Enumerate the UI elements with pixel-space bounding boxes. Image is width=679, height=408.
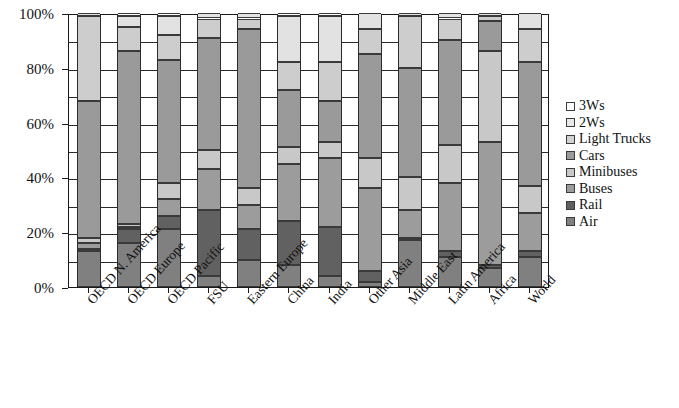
bar-world[interactable] [518, 15, 542, 287]
segment-3ws[interactable] [158, 13, 180, 16]
segment-light-trucks[interactable] [319, 62, 341, 100]
legend-label: Minibuses [579, 165, 637, 179]
segment-2ws[interactable] [78, 13, 100, 16]
legend-label: 2Ws [579, 116, 605, 130]
legend-item-2ws[interactable]: 2Ws [566, 115, 678, 132]
segment-light-trucks[interactable] [359, 29, 381, 54]
segment-cars[interactable] [519, 62, 541, 185]
bar-oecd-n-america[interactable] [77, 15, 101, 287]
segment-cars[interactable] [278, 90, 300, 148]
legend-swatch-icon [566, 135, 575, 144]
segment-light-trucks[interactable] [118, 27, 140, 52]
segment-rail[interactable] [158, 216, 180, 230]
segment-2ws[interactable] [198, 13, 220, 18]
segment-minibuses[interactable] [118, 224, 140, 227]
segment-light-trucks[interactable] [439, 19, 461, 41]
segment-cars[interactable] [439, 40, 461, 144]
segment-buses[interactable] [399, 210, 421, 237]
segment-light-trucks[interactable] [278, 62, 300, 89]
segment-rail[interactable] [319, 227, 341, 276]
segment-buses[interactable] [238, 205, 260, 230]
legend-label: Light Trucks [579, 132, 651, 146]
segment-buses[interactable] [439, 183, 461, 252]
bar-other-asia[interactable] [358, 15, 382, 287]
segment-rail[interactable] [519, 251, 541, 256]
segment-minibuses[interactable] [78, 238, 100, 243]
legend-swatch-icon [566, 151, 575, 160]
y-tick-label: 60% [27, 115, 55, 132]
segment-2ws[interactable] [519, 13, 541, 29]
segment-2ws[interactable] [238, 13, 260, 18]
legend-swatch-icon [566, 118, 575, 127]
segment-minibuses[interactable] [158, 183, 180, 199]
bar-india[interactable] [318, 15, 342, 287]
legend-item-cars[interactable]: Cars [566, 148, 678, 165]
segment-2ws[interactable] [319, 16, 341, 63]
segment-light-trucks[interactable] [238, 19, 260, 30]
y-tick-label: 0% [34, 280, 54, 297]
legend-label: Cars [579, 149, 605, 163]
segment-3ws[interactable] [278, 13, 300, 16]
legend: 3Ws2WsLight TrucksCarsMinibusesBusesRail… [566, 98, 678, 230]
y-tick-label: 40% [27, 170, 55, 187]
segment-minibuses[interactable] [359, 158, 381, 188]
segment-2ws[interactable] [278, 16, 300, 63]
segment-buses[interactable] [198, 169, 220, 210]
segment-buses[interactable] [319, 158, 341, 227]
segment-cars[interactable] [198, 38, 220, 150]
segment-minibuses[interactable] [479, 51, 501, 141]
legend-swatch-icon [566, 102, 575, 111]
segment-light-trucks[interactable] [78, 16, 100, 101]
segment-minibuses[interactable] [198, 150, 220, 169]
segment-3ws[interactable] [118, 13, 140, 16]
legend-item-light-trucks[interactable]: Light Trucks [566, 131, 678, 148]
segment-buses[interactable] [118, 227, 140, 230]
legend-item-air[interactable]: Air [566, 214, 678, 231]
segment-light-trucks[interactable] [479, 16, 501, 21]
segment-light-trucks[interactable] [519, 29, 541, 62]
segment-minibuses[interactable] [278, 147, 300, 163]
segment-cars[interactable] [319, 101, 341, 142]
segment-cars[interactable] [238, 29, 260, 188]
segment-2ws[interactable] [359, 13, 381, 29]
bar-middle-east[interactable] [398, 15, 422, 287]
legend-item-rail[interactable]: Rail [566, 197, 678, 214]
segment-rail[interactable] [78, 249, 100, 252]
segment-cars[interactable] [78, 101, 100, 238]
segment-minibuses[interactable] [519, 186, 541, 213]
bar-latin-america[interactable] [438, 15, 462, 287]
bar-eastern-europe[interactable] [237, 15, 261, 287]
segment-rail[interactable] [238, 229, 260, 259]
legend-label: Rail [579, 198, 602, 212]
legend-item-buses[interactable]: Buses [566, 181, 678, 198]
segment-rail[interactable] [399, 238, 421, 241]
segment-2ws[interactable] [479, 13, 501, 16]
segment-buses[interactable] [158, 199, 180, 215]
segment-cars[interactable] [118, 51, 140, 224]
segment-light-trucks[interactable] [158, 35, 180, 60]
segment-minibuses[interactable] [439, 145, 461, 183]
segment-minibuses[interactable] [319, 142, 341, 158]
segment-light-trucks[interactable] [198, 19, 220, 38]
segment-cars[interactable] [359, 54, 381, 158]
segment-buses[interactable] [359, 188, 381, 270]
segment-minibuses[interactable] [399, 177, 421, 210]
segment-buses[interactable] [519, 213, 541, 251]
legend-swatch-icon [566, 217, 575, 226]
segment-2ws[interactable] [158, 16, 180, 35]
segment-cars[interactable] [399, 68, 421, 178]
segment-2ws[interactable] [439, 13, 461, 18]
segment-rail[interactable] [359, 271, 381, 282]
segment-2ws[interactable] [399, 13, 421, 16]
legend-swatch-icon [566, 184, 575, 193]
segment-2ws[interactable] [118, 16, 140, 27]
legend-item-minibuses[interactable]: Minibuses [566, 164, 678, 181]
segment-cars[interactable] [158, 60, 180, 183]
segment-cars[interactable] [479, 21, 501, 51]
segment-buses[interactable] [278, 164, 300, 222]
segment-3ws[interactable] [319, 13, 341, 16]
legend-item-3ws[interactable]: 3Ws [566, 98, 678, 115]
segment-light-trucks[interactable] [399, 16, 421, 68]
segment-minibuses[interactable] [238, 188, 260, 204]
segment-buses[interactable] [78, 243, 100, 248]
